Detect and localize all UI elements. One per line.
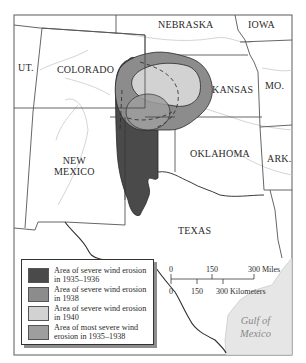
legend-item-most-severe: Area of most severe wind erosion in 1935… bbox=[28, 324, 149, 341]
legend-label: Area of most severe wind erosion in 1935… bbox=[54, 324, 149, 341]
label-new-mexico: NEW MEXICO bbox=[54, 155, 95, 177]
scale-km-150: 150 bbox=[191, 287, 203, 296]
scale-km-0: 0 bbox=[169, 287, 173, 296]
label-utah: UT. bbox=[18, 62, 34, 73]
legend-swatch-1935-1936 bbox=[28, 268, 49, 283]
scale-miles-0: 0 bbox=[169, 265, 173, 274]
scale-miles-unit: Miles bbox=[262, 265, 280, 274]
legend-item-1938: Area of severe wind erosion in 1938 bbox=[28, 286, 149, 303]
label-nebraska: NEBRASKA bbox=[158, 19, 214, 30]
label-arkansas: ARK. bbox=[267, 153, 291, 164]
scale-km-300: 300 Kilometers bbox=[216, 287, 266, 296]
legend-label: Area of severe wind erosion in 1935–1936 bbox=[54, 267, 149, 284]
label-missouri: MO. bbox=[265, 80, 284, 91]
legend-label: Area of severe wind erosion in 1940 bbox=[54, 305, 149, 322]
label-gulf-line2: Mexico bbox=[240, 327, 271, 340]
label-gulf-line1: Gulf of bbox=[240, 314, 271, 327]
scale-miles-150: 150 bbox=[206, 265, 218, 274]
legend-item-1935-1936: Area of severe wind erosion in 1935–1936 bbox=[28, 267, 149, 284]
legend-item-1940: Area of severe wind erosion in 1940 bbox=[28, 305, 149, 322]
label-kansas: KANSAS bbox=[212, 84, 253, 95]
label-new-mexico-line1: NEW bbox=[54, 155, 95, 166]
map-legend: Area of severe wind erosion in 1935–1936… bbox=[21, 259, 154, 345]
label-oklahoma: OKLAHOMA bbox=[190, 148, 250, 159]
legend-label: Area of severe wind erosion in 1938 bbox=[54, 286, 149, 303]
erosion-most-severe-1935-1938 bbox=[126, 94, 170, 130]
label-colorado: COLORADO bbox=[57, 64, 114, 75]
scale-miles-300-value: 300 bbox=[248, 265, 260, 274]
legend-swatch-1938 bbox=[28, 287, 49, 302]
scale-km-300-value: 300 bbox=[216, 287, 228, 296]
scale-km-unit: Kilometers bbox=[230, 287, 266, 296]
label-iowa: IOWA bbox=[248, 19, 275, 30]
label-gulf-of-mexico: Gulf of Mexico bbox=[240, 314, 271, 340]
label-texas: TEXAS bbox=[178, 225, 211, 236]
label-new-mexico-line2: MEXICO bbox=[54, 166, 95, 177]
legend-swatch-most-severe bbox=[28, 325, 49, 340]
scale-miles-300: 300 Miles bbox=[248, 265, 280, 274]
legend-swatch-1940 bbox=[28, 306, 49, 321]
